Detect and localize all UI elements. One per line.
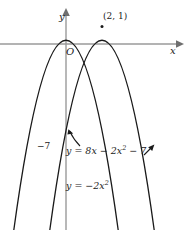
equation-label-curve-1-main: y = 8x − 2x [66,145,122,156]
y-axis-label: y [59,12,65,22]
x-axis-arrowhead-icon [176,40,184,48]
parabola-graph-figure: y x O (2, 1) −7 y = 8x − 2x2 − 7 y = −2x… [0,0,189,230]
x-axis-label: x [170,46,176,56]
plot-canvas [0,0,189,230]
origin-label: O [66,47,74,57]
pointer-arrow-left [67,129,80,146]
pointer-arrow-left-head-icon [67,129,73,134]
vertex-coordinate-label: (2, 1) [103,12,127,21]
vertex-point-marker [101,25,104,28]
y-intercept-tick-label: −7 [37,142,50,151]
equation-label-curve-1: y = 8x − 2x2 − 7 [66,145,146,156]
equation-label-curve-2-exponent: 2 [105,179,109,187]
equation-label-curve-2: y = −2x2 [66,180,109,191]
equation-label-curve-2-main: y = −2x [66,180,105,191]
equation-label-curve-1-tail: − 7 [126,145,146,156]
